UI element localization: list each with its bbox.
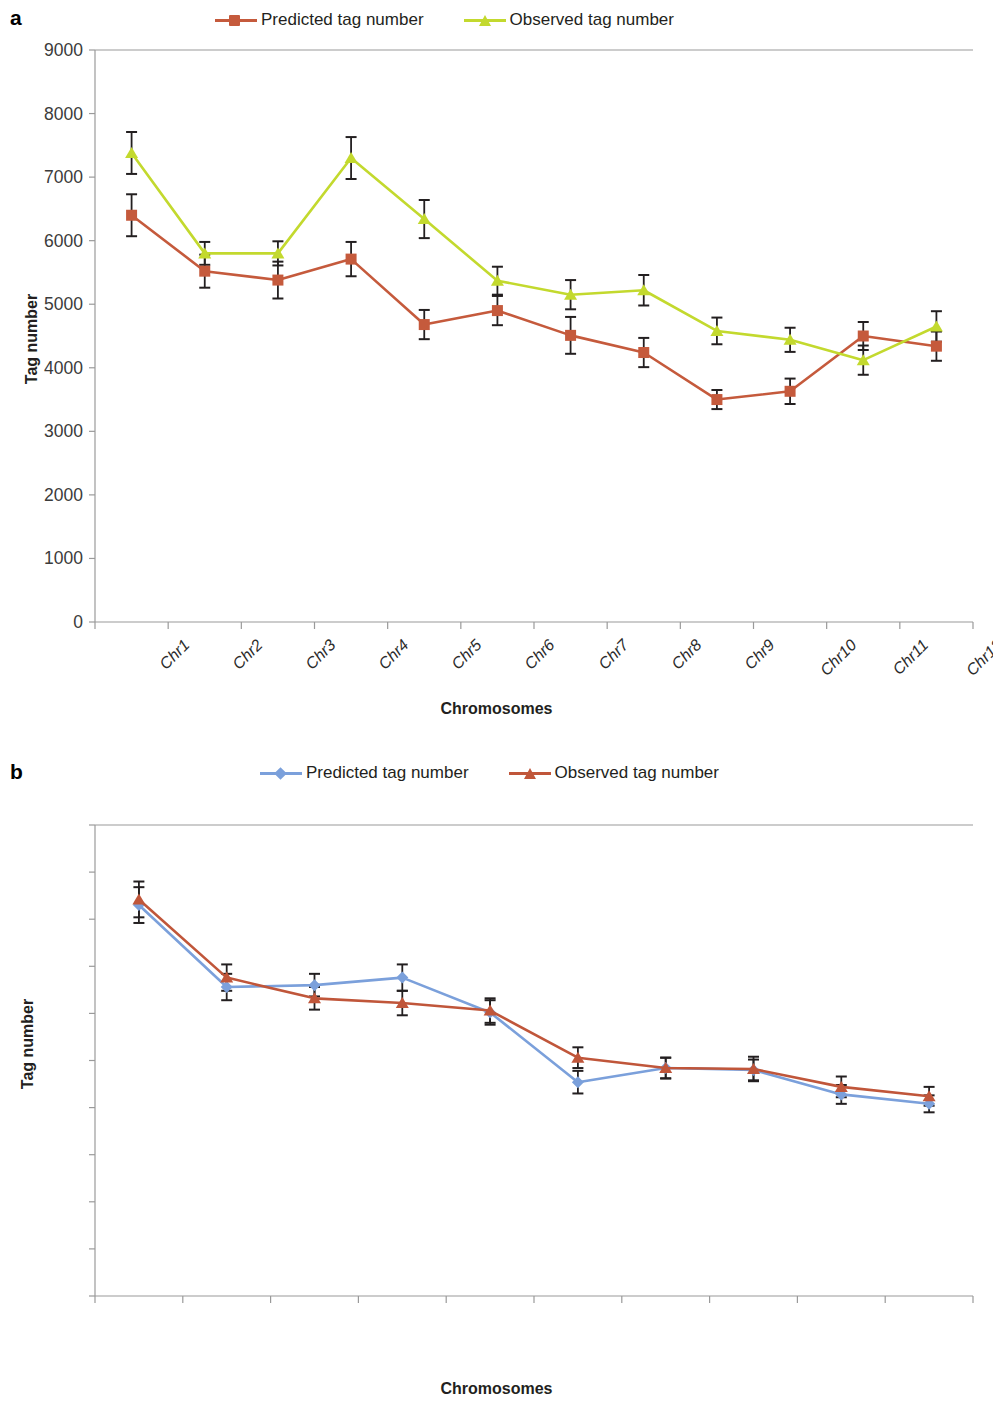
panel-a-y-axis-title: Tag number	[23, 279, 41, 399]
legend-entry-observed: Observed tag number	[509, 763, 719, 783]
legend-key-observed-triangle-icon	[509, 766, 551, 780]
panel-a: a Predicted tag number Observed tag numb…	[0, 0, 993, 745]
legend-entry-observed: Observed tag number	[464, 10, 674, 30]
legend-label-predicted: Predicted tag number	[261, 10, 424, 30]
x-tick-label: Chr7	[595, 636, 632, 673]
panel-b: b Predicted tag number Observed tag numb…	[0, 745, 993, 1401]
legend-key-observed-triangle-icon	[464, 13, 506, 27]
panel-a-legend: Predicted tag number Observed tag number	[215, 10, 674, 30]
x-tick-label: Chr4	[375, 636, 412, 673]
panel-b-y-axis-title: Tag number	[19, 984, 37, 1104]
y-tick-label: 3000	[44, 421, 83, 442]
legend-key-predicted-diamond-icon	[260, 766, 302, 780]
x-tick-label: Chr3	[302, 636, 339, 673]
legend-entry-predicted: Predicted tag number	[215, 10, 424, 30]
legend-key-predicted-square-icon	[215, 13, 257, 27]
panel-b-plot-area	[95, 825, 973, 1296]
y-tick-label: 0	[73, 612, 83, 633]
x-tick-label: Chr8	[668, 636, 705, 673]
x-tick-label: Chr10	[817, 636, 861, 680]
x-tick-label: Chr5	[448, 636, 485, 673]
panel-a-x-axis-title: Chromosomes	[0, 700, 993, 718]
panel-b-legend: Predicted tag number Observed tag number	[260, 763, 719, 783]
panel-a-letter: a	[10, 6, 22, 30]
x-tick-label: Chr9	[741, 636, 778, 673]
panel-b-chart-svg	[95, 825, 973, 1296]
legend-entry-predicted: Predicted tag number	[260, 763, 469, 783]
y-tick-label: 8000	[44, 103, 83, 124]
x-tick-label: Chr6	[522, 636, 559, 673]
x-tick-label: Chr1	[156, 636, 193, 673]
x-tick-label: Chr11	[890, 636, 933, 679]
panel-b-letter: b	[10, 760, 23, 784]
y-tick-label: 7000	[44, 167, 83, 188]
legend-label-predicted: Predicted tag number	[306, 763, 469, 783]
panel-b-x-axis-title: Chromosomes	[0, 1380, 993, 1398]
legend-label-observed: Observed tag number	[510, 10, 674, 30]
y-tick-label: 4000	[44, 357, 83, 378]
y-tick-label: 9000	[44, 40, 83, 61]
y-tick-label: 1000	[44, 548, 83, 569]
panel-a-plot-area	[95, 50, 973, 622]
y-tick-label: 6000	[44, 230, 83, 251]
legend-label-observed: Observed tag number	[555, 763, 719, 783]
panel-a-chart-svg	[95, 50, 973, 622]
y-tick-label: 5000	[44, 294, 83, 315]
y-tick-label: 2000	[44, 484, 83, 505]
x-tick-label: Chr2	[229, 636, 266, 673]
x-tick-label: Chr12	[963, 636, 993, 680]
